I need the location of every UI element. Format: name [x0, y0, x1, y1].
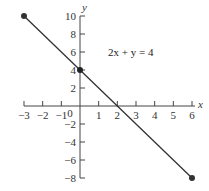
x-tick-label: 6: [189, 109, 195, 121]
x-tick-label: −2: [37, 109, 49, 121]
x-ticks: −3−2−1123456: [18, 101, 195, 121]
y-tick-label: −4: [64, 136, 76, 148]
x-axis-label: x: [197, 98, 203, 110]
equation-label: 2x + y = 4: [108, 46, 154, 58]
y-tick-label: 10: [65, 10, 77, 22]
endpoint-marker: [189, 175, 195, 181]
x-tick-label: −3: [18, 109, 30, 121]
y-tick-label: −8: [64, 172, 76, 184]
x-tick-label: 2: [115, 109, 121, 121]
y-intercept-marker: [77, 67, 83, 73]
endpoint-marker: [21, 13, 27, 19]
x-tick-label: 3: [133, 109, 139, 121]
origin-label: 0: [67, 107, 73, 119]
y-tick-label: 6: [71, 46, 77, 58]
x-tick-label: 5: [171, 109, 177, 121]
y-tick-label: 2: [71, 82, 77, 94]
y-ticks: −8−6−4−2246810: [64, 10, 85, 184]
line-2x-plus-y-equals-4: [24, 16, 192, 178]
x-tick-label: 4: [152, 109, 158, 121]
y-tick-label: 8: [71, 28, 77, 40]
y-axis-label: y: [81, 1, 87, 13]
y-tick-label: −2: [64, 118, 76, 130]
y-tick-label: −6: [64, 154, 76, 166]
x-tick-label: 1: [96, 109, 102, 121]
line-chart: −3−2−1123456 −8−6−4−2246810 x y 0 2x + y…: [0, 0, 209, 191]
